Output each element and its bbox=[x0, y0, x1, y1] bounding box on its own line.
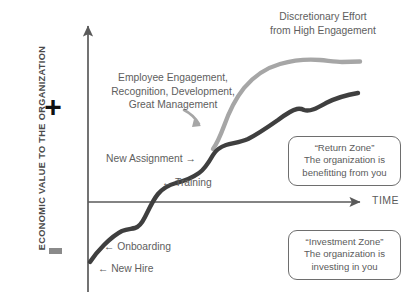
return-zone-title: “Return Zone” bbox=[295, 142, 394, 154]
engagement-callout-arrow-icon bbox=[184, 110, 201, 127]
annotation-employee-engagement: Employee Engagement, Recognition, Develo… bbox=[95, 71, 251, 112]
diagram-canvas: ECONOMIC VALUE TO THE ORGANIZATION + TIM… bbox=[0, 0, 407, 307]
return-zone-callout: “Return Zone” The organization is benefi… bbox=[288, 136, 401, 186]
annotation-employee-engagement-line1: Employee Engagement, bbox=[95, 71, 251, 85]
y-axis-label: ECONOMIC VALUE TO THE ORGANIZATION bbox=[37, 23, 47, 273]
annotation-discretionary-effort: Discretionary Effort from High Engagemen… bbox=[243, 10, 403, 37]
return-zone-line3: benefitting from you bbox=[295, 167, 394, 179]
investment-zone-line2: The organization is bbox=[295, 248, 394, 260]
annotation-discretionary-effort-line2: from High Engagement bbox=[243, 24, 403, 38]
return-zone-line2: The organization is bbox=[295, 154, 394, 166]
annotation-new-hire: ← New Hire bbox=[98, 262, 154, 276]
investment-zone-callout: “Investment Zone” The organization is in… bbox=[288, 230, 401, 280]
investment-zone-line3: investing in you bbox=[295, 261, 394, 273]
annotation-discretionary-effort-line1: Discretionary Effort bbox=[243, 10, 403, 24]
positive-value-marker-icon: + bbox=[40, 93, 66, 121]
annotation-employee-engagement-line3: Great Management bbox=[95, 98, 251, 112]
annotation-onboarding: ← Onboarding bbox=[104, 240, 171, 254]
annotation-employee-engagement-line2: Recognition, Development, bbox=[95, 85, 251, 99]
annotation-new-assignment: New Assignment → bbox=[106, 152, 196, 166]
negative-value-marker-icon bbox=[49, 248, 62, 254]
x-axis-label: TIME bbox=[372, 194, 399, 206]
investment-zone-title: “Investment Zone” bbox=[295, 236, 394, 248]
annotation-training: ← Training bbox=[162, 176, 212, 190]
